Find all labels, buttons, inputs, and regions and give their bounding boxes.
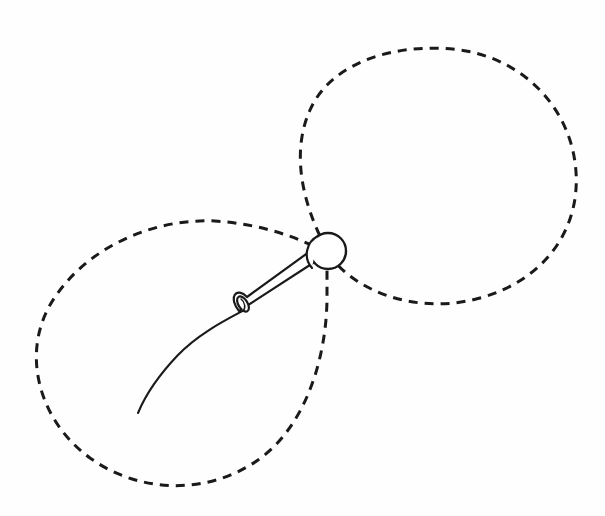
needle-illustration-canvas: Needle and thread forming two dashed sti… — [0, 0, 605, 516]
illustration-svg: Needle and thread forming two dashed sti… — [0, 0, 605, 516]
